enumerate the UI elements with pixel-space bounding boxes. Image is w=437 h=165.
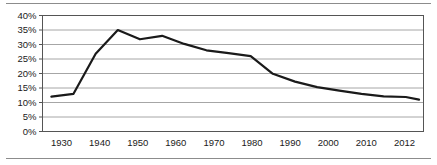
- gridlines: [43, 16, 424, 118]
- y-axis-tick-label: 35%: [17, 24, 37, 35]
- chart-canvas: 0%5%10%15%20%25%30%35%40% 19301940195019…: [0, 9, 437, 155]
- y-axis-tick-label: 15%: [17, 82, 37, 93]
- x-axis-tick-label: 1960: [165, 137, 186, 148]
- x-axis-tick-label: 1950: [127, 137, 148, 148]
- x-axis-tick-label: 2012: [394, 137, 415, 148]
- y-axis-tick-label: 40%: [17, 10, 37, 21]
- x-axis-tick-label: 1980: [241, 137, 262, 148]
- x-axis-tick-label: 1930: [51, 137, 72, 148]
- y-axis-tick-labels: 0%5%10%15%20%25%30%35%40%: [17, 10, 37, 137]
- y-axis-tick-label: 5%: [23, 111, 37, 122]
- y-axis-ticks: [39, 16, 43, 132]
- x-axis-tick-labels: 1930194019501960197019801990200020102012: [51, 137, 415, 148]
- data-series-line: [51, 30, 419, 100]
- y-axis-tick-label: 20%: [17, 68, 37, 79]
- x-axis-tick-label: 2010: [356, 137, 377, 148]
- x-axis-tick-label: 1990: [280, 137, 301, 148]
- x-axis-tick-label: 2000: [318, 137, 339, 148]
- bottom-horizontal-rule: [6, 158, 431, 159]
- y-axis-tick-label: 10%: [17, 97, 37, 108]
- chart-figure: 0%5%10%15%20%25%30%35%40% 19301940195019…: [0, 0, 437, 165]
- line-chart: 0%5%10%15%20%25%30%35%40% 19301940195019…: [0, 9, 437, 155]
- x-axis-tick-label: 1940: [89, 137, 110, 148]
- top-horizontal-rule: [6, 3, 431, 4]
- y-axis-tick-label: 25%: [17, 53, 37, 64]
- y-axis-tick-label: 0%: [23, 126, 37, 137]
- y-axis-tick-label: 30%: [17, 39, 37, 50]
- x-axis-tick-label: 1970: [203, 137, 224, 148]
